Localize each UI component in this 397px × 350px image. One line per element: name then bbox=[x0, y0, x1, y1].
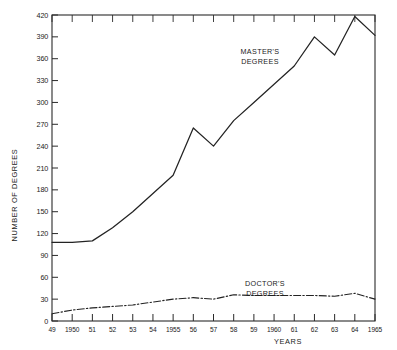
x-tick-label: 62 bbox=[311, 326, 319, 333]
y-tick-label: 30 bbox=[40, 295, 48, 304]
degrees-line-chart: 0306090120150180210240270300330360390420… bbox=[0, 0, 397, 350]
x-tick-label: 61 bbox=[291, 326, 299, 333]
x-tick-label: 49 bbox=[48, 326, 56, 333]
x-tick-label: 56 bbox=[190, 326, 198, 333]
y-tick-label: 240 bbox=[37, 142, 49, 151]
x-tick-label: 58 bbox=[230, 326, 238, 333]
x-tick-label: 54 bbox=[149, 326, 157, 333]
x-tick-label: 59 bbox=[250, 326, 258, 333]
y-tick-label: 90 bbox=[40, 251, 48, 260]
y-tick-label: 360 bbox=[37, 54, 49, 63]
y-tick-label: 120 bbox=[37, 229, 49, 238]
masters-annotation-line2: DEGREES bbox=[241, 57, 279, 66]
x-tick-label: 51 bbox=[89, 326, 97, 333]
x-tick-label: 1960 bbox=[267, 326, 282, 333]
y-tick-label: 270 bbox=[37, 120, 49, 129]
x-axis-tick-labels: 4919505152535419555657585919606162636419… bbox=[48, 326, 382, 333]
y-axis-ticks bbox=[52, 15, 58, 321]
x-tick-label: 63 bbox=[331, 326, 339, 333]
masters-annotation-line1: MASTER'S bbox=[241, 47, 280, 56]
x-tick-label: 64 bbox=[351, 326, 359, 333]
y-tick-label: 210 bbox=[37, 164, 49, 173]
x-axis-title: YEARS bbox=[274, 337, 302, 346]
doctors-degrees-line bbox=[52, 293, 375, 313]
y-tick-label: 0 bbox=[44, 317, 48, 326]
plot-border bbox=[52, 15, 375, 321]
doctors-annotation-line2: DEGREES bbox=[246, 289, 284, 298]
masters-degrees-line bbox=[52, 16, 375, 242]
x-tick-label: 52 bbox=[109, 326, 117, 333]
x-tick-label: 1965 bbox=[368, 326, 383, 333]
masters-annotation: MASTER'S DEGREES bbox=[241, 47, 280, 66]
x-tick-label: 53 bbox=[129, 326, 137, 333]
doctors-annotation-line1: DOCTOR'S bbox=[245, 279, 285, 288]
x-axis-top-ticks bbox=[52, 15, 375, 22]
plot-frame bbox=[52, 15, 375, 321]
y-tick-label: 390 bbox=[37, 32, 49, 41]
y-tick-label: 330 bbox=[37, 76, 49, 85]
chart-canvas: 0306090120150180210240270300330360390420… bbox=[0, 0, 397, 350]
y-axis-tick-labels: 0306090120150180210240270300330360390420 bbox=[37, 11, 49, 326]
y-tick-label: 300 bbox=[37, 98, 49, 107]
x-axis-ticks bbox=[52, 314, 375, 321]
y-tick-label: 150 bbox=[37, 207, 49, 216]
y-tick-label: 60 bbox=[40, 273, 48, 282]
y-axis-title: NUMBER OF DEGREES bbox=[10, 149, 19, 242]
x-tick-label: 57 bbox=[210, 326, 218, 333]
x-tick-label: 1955 bbox=[166, 326, 181, 333]
doctors-annotation: DOCTOR'S DEGREES bbox=[245, 279, 285, 298]
x-tick-label: 1950 bbox=[65, 326, 80, 333]
y-tick-label: 180 bbox=[37, 185, 49, 194]
y-tick-label: 420 bbox=[37, 11, 49, 20]
